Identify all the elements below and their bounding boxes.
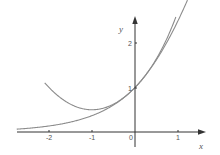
x-tick-label-neg2: -2 <box>46 134 52 141</box>
y-axis: 2 1 y <box>118 16 138 147</box>
x-axis-label: x <box>198 141 203 151</box>
y-tick-label-2: 2 <box>128 40 132 47</box>
x-tick-label-1: 1 <box>176 134 180 141</box>
x-axis: -2 -1 0 1 x <box>17 129 206 151</box>
origin-label: 0 <box>129 134 133 141</box>
exp-curve <box>17 17 176 129</box>
y-axis-label: y <box>118 24 123 34</box>
y-tick-label-1: 1 <box>128 85 132 92</box>
taylor-curve <box>45 0 188 110</box>
plot-canvas: -2 -1 0 1 x 2 1 y <box>0 0 220 155</box>
y-axis-arrow-icon <box>132 16 137 24</box>
x-axis-arrow-icon <box>198 129 206 134</box>
x-tick-label-neg1: -1 <box>89 134 95 141</box>
